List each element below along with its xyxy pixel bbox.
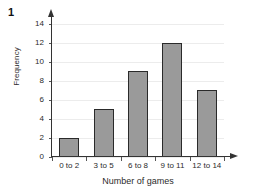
question-number-label: 1 <box>8 6 14 18</box>
x-axis-tick-labels: 0 to 23 to 56 to 89 to 1112 to 14 <box>52 161 224 170</box>
x-axis-tick-label: 3 to 5 <box>86 161 120 170</box>
bar-slot <box>190 14 224 157</box>
x-axis-title: Number of games <box>52 176 224 186</box>
x-axis-tick-label: 0 to 2 <box>52 161 86 170</box>
x-axis-tick-label: 6 to 8 <box>121 161 155 170</box>
y-axis-tick-label: 0 <box>28 153 44 161</box>
x-axis-tick-label: 12 to 14 <box>190 161 224 170</box>
bar <box>162 43 182 157</box>
y-axis-tick-label: 6 <box>28 96 44 104</box>
bar-slot <box>86 14 120 157</box>
x-axis-tick-label: 9 to 11 <box>155 161 189 170</box>
y-axis-tick-label: 4 <box>28 115 44 123</box>
bar <box>59 138 79 157</box>
y-axis-tick-label: 12 <box>28 39 44 47</box>
y-axis-tick-label: 8 <box>28 77 44 85</box>
y-axis-tick-label: 2 <box>28 134 44 142</box>
bar-slot <box>155 14 189 157</box>
bar <box>94 109 114 157</box>
x-axis-tick-mark <box>224 157 225 161</box>
bar-slot <box>121 14 155 157</box>
bar <box>128 71 148 157</box>
y-axis-tick-label: 14 <box>28 20 44 28</box>
bar-series <box>52 14 224 157</box>
y-axis-tick-label: 10 <box>28 58 44 66</box>
y-axis-tick-labels: 02468101214 <box>22 0 44 192</box>
histogram-figure: 1 Frequency 02468101214 0 to 23 to 56 to… <box>0 0 261 192</box>
bar-slot <box>52 14 86 157</box>
y-axis-title: Frequency <box>12 27 21 107</box>
bar <box>197 90 217 157</box>
